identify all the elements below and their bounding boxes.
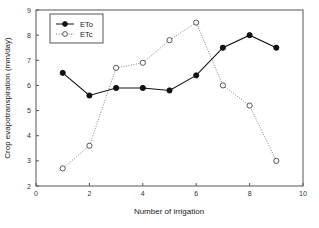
data-point [87,143,92,148]
x-tick-label: 10 [299,190,307,197]
y-tick-label: 6 [27,82,31,89]
y-tick-label: 8 [27,32,31,39]
data-point [220,45,225,50]
data-point [167,38,172,43]
legend-label: ETc [80,30,93,39]
open-circle-marker-icon [63,32,68,37]
x-axis-title: Number of irrigation [134,207,204,216]
data-point [194,73,199,78]
filled-circle-marker-icon [63,22,68,27]
data-point [167,88,172,93]
x-tick-label: 6 [194,190,198,197]
y-tick-label: 2 [27,183,31,190]
y-tick-label: 3 [27,157,31,164]
series-line [63,23,277,169]
data-point [114,65,119,70]
data-point [247,103,252,108]
data-point [140,60,145,65]
data-point [274,45,279,50]
y-tick-label: 9 [27,7,31,14]
legend-label: ETo [80,20,93,29]
data-point [247,33,252,38]
line-chart: 0246810 23456789 EToETc Number of irriga… [0,0,319,228]
data-point [194,20,199,25]
legend: EToETc [50,14,103,43]
data-point [114,85,119,90]
data-point [140,85,145,90]
data-point [274,158,279,163]
legend-box [50,14,103,43]
y-tick-label: 4 [27,132,31,139]
x-axis-ticks: 0246810 [34,183,307,197]
x-tick-label: 2 [87,190,91,197]
y-tick-label: 5 [27,107,31,114]
data-point [60,166,65,171]
data-point [60,70,65,75]
data-point [220,83,225,88]
y-axis-title: Crop evapotranspiration (mm/day) [3,37,12,159]
x-tick-label: 0 [34,190,38,197]
y-tick-label: 7 [27,57,31,64]
data-point [87,93,92,98]
x-tick-label: 8 [248,190,252,197]
series-line [63,35,277,95]
x-tick-label: 4 [141,190,145,197]
y-axis-ticks: 23456789 [27,7,39,190]
